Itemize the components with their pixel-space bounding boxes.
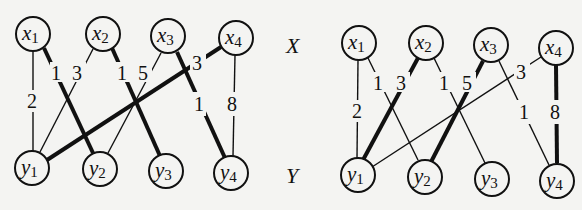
node-x1: x1 xyxy=(16,17,50,51)
node-x4: x4 xyxy=(539,31,573,65)
weight-x2-y1: 3 xyxy=(396,72,406,94)
weight-x1-y2: 1 xyxy=(373,72,383,94)
node-x4: x4 xyxy=(219,21,253,55)
node-x2: x2 xyxy=(86,17,120,51)
node-y3: y3 xyxy=(149,154,183,188)
weight-x1-y2: 1 xyxy=(51,62,61,84)
node-x3: x3 xyxy=(151,19,185,53)
label-x-set: X xyxy=(285,33,301,58)
node-y4: y4 xyxy=(214,156,248,190)
left-graph: 2 1 3 1 5 3 1 8 x1 x2 x3 xyxy=(15,17,253,190)
weight-x3-y2: 5 xyxy=(138,62,148,84)
weight-x4-y1: 3 xyxy=(192,52,202,74)
weight-x2-y3: 1 xyxy=(117,62,127,84)
weight-x4-y1: 3 xyxy=(516,61,526,83)
weight-x1-y1: 2 xyxy=(352,100,362,122)
node-y1: y1 xyxy=(15,151,49,185)
weight-x4-y4: 8 xyxy=(550,101,560,123)
weight-x2-y1: 3 xyxy=(72,62,82,84)
right-graph: 2 1 3 1 5 3 1 8 x1 x2 x3 xyxy=(341,26,574,198)
weight-x2-y3: 1 xyxy=(439,72,449,94)
weight-x3-y2: 5 xyxy=(462,72,472,94)
bipartite-graphs-figure: 2 1 3 1 5 3 1 8 x1 x2 x3 xyxy=(0,0,582,210)
node-x1: x1 xyxy=(342,26,376,60)
node-y2: y2 xyxy=(408,160,442,194)
node-x2: x2 xyxy=(409,26,443,60)
node-y4: y4 xyxy=(540,164,574,198)
node-y2: y2 xyxy=(83,152,117,186)
node-y3: y3 xyxy=(475,162,509,196)
weight-x4-y4: 8 xyxy=(227,93,237,115)
weight-x3-y4: 1 xyxy=(519,101,529,123)
weight-x1-y1: 2 xyxy=(27,90,37,112)
node-x3: x3 xyxy=(474,28,508,62)
node-y1: y1 xyxy=(341,158,375,192)
weight-x3-y4: 1 xyxy=(194,93,204,115)
label-y-set: Y xyxy=(286,163,301,188)
